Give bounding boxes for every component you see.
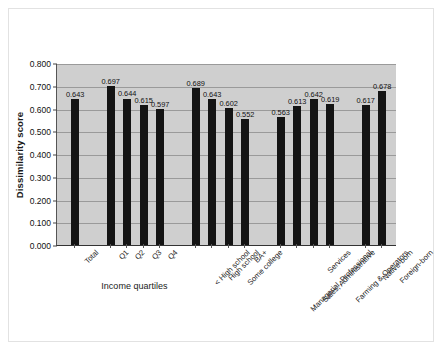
y-axis-tick-mark bbox=[53, 86, 57, 87]
y-axis-tick-mark bbox=[53, 132, 57, 133]
bar-value-label: 0.689 bbox=[186, 79, 205, 88]
y-axis-tick-mark bbox=[53, 223, 57, 224]
bar[interactable] bbox=[192, 88, 200, 245]
bar-value-label: 0.602 bbox=[219, 99, 238, 108]
x-axis-tick-mark bbox=[280, 244, 281, 248]
y-axis-tick-label: 0.800 bbox=[5, 59, 57, 69]
y-axis-tick-label: 0.000 bbox=[5, 241, 57, 251]
bar[interactable] bbox=[71, 99, 79, 245]
bar-value-label: 0.552 bbox=[236, 110, 255, 119]
x-axis-group-label-income-quartiles: Income quartiles bbox=[101, 281, 167, 291]
y-axis-tick-mark bbox=[53, 155, 57, 156]
y-axis-tick-mark bbox=[53, 109, 57, 110]
y-axis-tick-mark bbox=[53, 64, 57, 65]
x-axis-tick-label: Q3 bbox=[150, 248, 164, 262]
bar[interactable] bbox=[310, 99, 318, 245]
bar[interactable] bbox=[277, 117, 285, 245]
y-axis-tick-mark bbox=[53, 177, 57, 178]
x-axis-tick-label: Q2 bbox=[133, 248, 147, 262]
y-axis-tick-label: 0.700 bbox=[5, 82, 57, 92]
x-axis-tick-label: Q1 bbox=[117, 248, 131, 262]
x-axis-tick-mark bbox=[110, 244, 111, 248]
bar[interactable] bbox=[208, 99, 216, 245]
x-axis-tick-mark bbox=[244, 244, 245, 248]
x-axis-tick-mark bbox=[228, 244, 229, 248]
x-axis-tick-mark bbox=[365, 244, 366, 248]
y-axis-tick-mark bbox=[53, 246, 57, 247]
x-axis-tick-label: Q4 bbox=[166, 248, 180, 262]
bar-value-label: 0.597 bbox=[151, 100, 170, 109]
bar-value-label: 0.619 bbox=[321, 95, 340, 104]
x-axis-tick-mark bbox=[211, 244, 212, 248]
y-axis-tick-label: 0.300 bbox=[5, 173, 57, 183]
x-axis-tick-mark bbox=[381, 244, 382, 248]
x-axis-tick-mark bbox=[159, 244, 160, 248]
plot-area: 0.0000.1000.2000.3000.4000.5000.6000.700… bbox=[56, 64, 396, 246]
plot-wrapper: 0.0000.1000.2000.3000.4000.5000.6000.700… bbox=[56, 64, 396, 246]
y-axis-title: Dissimilarity score bbox=[14, 0, 30, 60]
bar[interactable] bbox=[123, 99, 131, 246]
bar-value-label: 0.678 bbox=[373, 82, 392, 91]
y-axis-tick-label: 0.400 bbox=[5, 150, 57, 160]
bar[interactable] bbox=[326, 104, 334, 245]
x-axis-tick-mark bbox=[195, 244, 196, 248]
x-axis-tick-mark bbox=[296, 244, 297, 248]
bar[interactable] bbox=[293, 106, 301, 245]
y-axis-tick-mark bbox=[53, 200, 57, 201]
x-axis-tick-label: Total bbox=[83, 248, 101, 266]
chart-figure: Dissimilarity score 0.0000.1000.2000.300… bbox=[0, 0, 442, 350]
y-axis-tick-label: 0.500 bbox=[5, 127, 57, 137]
bar-value-label: 0.563 bbox=[271, 108, 290, 117]
y-axis-tick-label: 0.200 bbox=[5, 196, 57, 206]
x-axis-tick-mark bbox=[329, 244, 330, 248]
x-axis-tick-mark bbox=[74, 244, 75, 248]
gridline bbox=[57, 64, 396, 65]
x-axis-tick-mark bbox=[313, 244, 314, 248]
bar[interactable] bbox=[378, 91, 386, 245]
x-axis-tick-mark bbox=[126, 244, 127, 248]
y-axis-tick-label: 0.600 bbox=[5, 105, 57, 115]
bar-value-label: 0.697 bbox=[101, 77, 120, 86]
bar[interactable] bbox=[156, 109, 164, 245]
bar[interactable] bbox=[140, 105, 148, 245]
bar-value-label: 0.617 bbox=[356, 96, 375, 105]
bar[interactable] bbox=[225, 108, 233, 245]
bar-value-label: 0.643 bbox=[66, 90, 85, 99]
bar[interactable] bbox=[107, 86, 115, 245]
x-axis-tick-mark bbox=[143, 244, 144, 248]
bar[interactable] bbox=[241, 119, 249, 245]
y-axis-tick-label: 0.100 bbox=[5, 218, 57, 228]
bar[interactable] bbox=[362, 105, 370, 245]
bar-value-label: 0.643 bbox=[203, 90, 222, 99]
